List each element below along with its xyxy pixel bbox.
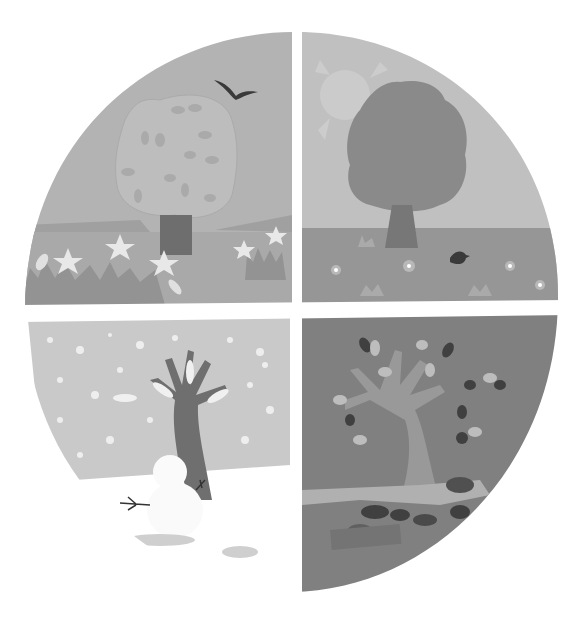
- four-seasons-illustration: [0, 0, 584, 621]
- spring-quadrant: [20, 30, 292, 305]
- autumn-quadrant: [302, 315, 562, 605]
- snowman-head: [153, 455, 187, 489]
- summer-quadrant: [302, 30, 562, 308]
- vertical-divider: [292, 20, 302, 620]
- snowman-body: [147, 482, 203, 538]
- winter-quadrant: [20, 318, 292, 610]
- spring-tree-trunk: [160, 215, 192, 255]
